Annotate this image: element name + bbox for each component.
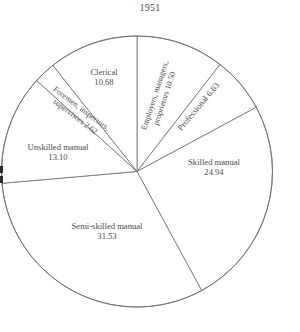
slice-label-line: 10.68 (94, 77, 113, 87)
slice-label-line: Skilled manual (188, 157, 240, 167)
slice-label-line: 13.10 (48, 152, 67, 162)
scan-artifact-lower (0, 176, 3, 183)
slice-label-line: Semi-skilled manual (72, 221, 143, 231)
slice-label-line: 24.94 (204, 167, 224, 177)
slice-label-line: 31.53 (97, 231, 116, 241)
pie-slices-group (2, 36, 273, 307)
pie-chart-canvas: Employers, managers,proprietors 10.50Pro… (0, 0, 300, 332)
slice-label-line: Unskilled manual (28, 142, 89, 152)
slice-label-line: Clerical (90, 67, 118, 77)
scan-artifact-upper (0, 166, 3, 173)
pie-chart-figure: 1951 Employers, managers,proprietors 10.… (0, 0, 300, 332)
